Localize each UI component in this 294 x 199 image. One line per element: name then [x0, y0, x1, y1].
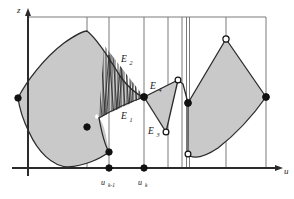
- marker-filled: [263, 94, 270, 101]
- marker-filled: [15, 95, 21, 101]
- region-label-e2-subscript: 2: [130, 59, 133, 66]
- right-lobe-region: [188, 39, 266, 157]
- marker-hollow: [185, 151, 191, 157]
- region-label-e1-subscript: 1: [130, 116, 133, 123]
- tick-label-u-k: u: [138, 178, 142, 187]
- tick-label-u-k-minus-1: u: [101, 178, 105, 187]
- region-label-e4-subscript: 4: [159, 86, 162, 93]
- marker-filled: [84, 124, 90, 130]
- mathematical-diagram: z u E 1 E 2 E 3 E 4 u k-1 u k: [0, 0, 294, 199]
- figure-container: z u E 1 E 2 E 3 E 4 u k-1 u k: [0, 0, 294, 199]
- marker-filled: [185, 100, 192, 107]
- x-axis-arrow: [275, 165, 283, 171]
- region-label-e2: E: [120, 54, 127, 64]
- region-label-e3: E: [147, 126, 154, 136]
- marker-filled: [106, 165, 112, 171]
- marker-filled: [106, 149, 112, 155]
- region-label-e1: E: [120, 111, 127, 121]
- region-label-e4: E: [149, 81, 156, 91]
- y-axis-label: z: [16, 5, 21, 15]
- marker-hollow: [175, 77, 181, 83]
- x-axis-label: u: [284, 166, 289, 176]
- marker-filled: [141, 94, 148, 101]
- region-label-e3-subscript: 3: [156, 131, 160, 138]
- tick-label-u-k-subscript: k: [145, 182, 148, 188]
- y-axis-arrow: [25, 8, 31, 16]
- marker-hollow: [223, 36, 229, 42]
- tick-label-u-k-minus-1-subscript: k-1: [108, 182, 115, 188]
- marker-hollow: [163, 129, 169, 135]
- marker-filled: [141, 165, 147, 171]
